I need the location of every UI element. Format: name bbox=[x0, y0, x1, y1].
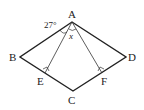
angle-label-27: 27° bbox=[44, 20, 57, 30]
label-a: A bbox=[68, 8, 76, 20]
label-e: E bbox=[37, 75, 44, 87]
label-b: B bbox=[9, 51, 16, 63]
label-f: F bbox=[101, 75, 107, 87]
unknown-angle-x: x bbox=[68, 31, 73, 41]
geometry-diagram: A B C D E F 27° x bbox=[0, 0, 144, 110]
label-c: C bbox=[68, 94, 75, 106]
rhombus-abcd bbox=[20, 22, 126, 91]
label-d: D bbox=[128, 51, 136, 63]
segment-af bbox=[72, 22, 102, 73]
angle-arc-27 bbox=[60, 30, 67, 33]
